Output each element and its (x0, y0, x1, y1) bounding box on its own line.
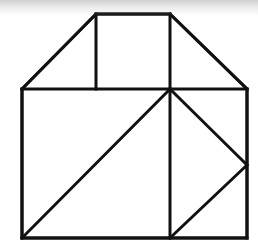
tangram-house-diagram (0, 0, 258, 252)
figure-canvas (0, 0, 258, 252)
